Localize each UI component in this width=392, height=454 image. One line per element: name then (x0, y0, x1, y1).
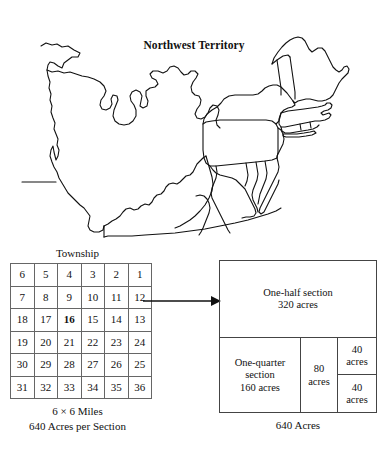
township-cell-highlighted[interactable]: 16 (58, 309, 82, 332)
township-cell[interactable]: 2 (105, 264, 129, 287)
township-cell[interactable]: 17 (34, 309, 58, 332)
township-cell[interactable]: 34 (81, 376, 105, 399)
township-cell[interactable]: 15 (81, 309, 105, 332)
us-eastern-states-outline-map-icon (0, 0, 392, 248)
one-half-section-acres: 320 acres (278, 299, 318, 312)
township-row: 30 29 28 27 26 25 (11, 354, 152, 377)
township-acres-caption: 640 Acres per Section (10, 419, 145, 434)
township-cell[interactable]: 5 (34, 264, 58, 287)
section-box: One-half section 320 acres One-quarter s… (219, 260, 377, 413)
township-cell[interactable]: 27 (81, 354, 105, 377)
forty-acres-bottom-number: 40 (352, 382, 363, 395)
right-arrow-icon (143, 294, 221, 308)
one-quarter-section-cell[interactable]: One-quarter section 160 acres (220, 338, 301, 413)
map-title: Northwest Territory (139, 39, 249, 51)
township-cell[interactable]: 13 (128, 309, 152, 332)
township-cell[interactable]: 29 (34, 354, 58, 377)
one-half-section-cell[interactable]: One-half section 320 acres (220, 261, 376, 338)
township-cell[interactable]: 32 (34, 376, 58, 399)
northwest-territory-map: Northwest Territory (0, 0, 392, 248)
forty-acres-bottom-unit: acres (346, 394, 368, 407)
township-cell[interactable]: 11 (105, 286, 129, 309)
township-cell[interactable]: 9 (58, 286, 82, 309)
eighty-acres-number: 80 (314, 363, 325, 376)
one-quarter-section-label-2: section (245, 369, 275, 382)
township-cell[interactable]: 19 (11, 331, 35, 354)
township-cell[interactable]: 6 (11, 264, 35, 287)
township-cell[interactable]: 4 (58, 264, 82, 287)
township-cell[interactable]: 30 (11, 354, 35, 377)
township-cell[interactable]: 23 (105, 331, 129, 354)
township-cell[interactable]: 21 (58, 331, 82, 354)
township-row: 31 32 33 34 35 36 (11, 376, 152, 399)
township-cell[interactable]: 20 (34, 331, 58, 354)
township-cell[interactable]: 1 (128, 264, 152, 287)
township-cell[interactable]: 28 (58, 354, 82, 377)
eighty-acres-cell[interactable]: 80 acres (301, 338, 338, 413)
township-block: Township 6 5 4 3 2 1 7 8 9 10 11 12 (10, 246, 145, 434)
section-subdivision-block: One-half section 320 acres One-quarter s… (219, 260, 377, 433)
township-cell[interactable]: 8 (34, 286, 58, 309)
eighty-acres-unit: acres (308, 376, 330, 389)
township-cell[interactable]: 26 (105, 354, 129, 377)
township-cell[interactable]: 3 (81, 264, 105, 287)
forty-acres-top-cell[interactable]: 40 acres (338, 338, 376, 375)
township-cell[interactable]: 7 (11, 286, 35, 309)
township-row: 7 8 9 10 11 12 (11, 286, 152, 309)
township-cell[interactable]: 14 (105, 309, 129, 332)
forty-acres-top-unit: acres (346, 356, 368, 369)
forty-acres-top-number: 40 (352, 344, 363, 357)
township-row: 6 5 4 3 2 1 (11, 264, 152, 287)
township-row: 19 20 21 22 23 24 (11, 331, 152, 354)
one-quarter-section-acres: 160 acres (240, 382, 280, 395)
township-grid: 6 5 4 3 2 1 7 8 9 10 11 12 18 17 (10, 263, 152, 399)
forty-acres-bottom-cell[interactable]: 40 acres (338, 375, 376, 413)
township-cell[interactable]: 35 (105, 376, 129, 399)
township-cell[interactable]: 36 (128, 376, 152, 399)
township-label: Township (10, 246, 145, 263)
township-cell[interactable]: 31 (11, 376, 35, 399)
township-section-diagram-page: Northwest Territory Township 6 5 4 3 2 1… (0, 0, 392, 454)
township-cell[interactable]: 24 (128, 331, 152, 354)
township-cell[interactable]: 33 (58, 376, 82, 399)
township-cell[interactable]: 22 (81, 331, 105, 354)
township-cell[interactable]: 10 (81, 286, 105, 309)
township-size-caption: 6 × 6 Miles (10, 399, 145, 419)
one-quarter-section-label-1: One-quarter (235, 357, 286, 370)
township-cell[interactable]: 18 (11, 309, 35, 332)
township-cell[interactable]: 25 (128, 354, 152, 377)
one-half-section-label: One-half section (263, 287, 333, 300)
section-total-acres-caption: 640 Acres (219, 413, 377, 433)
township-row: 18 17 16 15 14 13 (11, 309, 152, 332)
